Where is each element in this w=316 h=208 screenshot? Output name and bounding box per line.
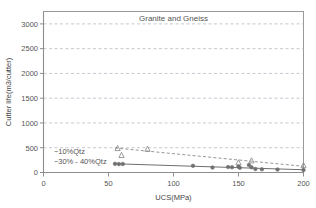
y-axis-title: Cutter life(m3/cutter) (4, 57, 13, 126)
y-tick-label-500: 500 (25, 144, 38, 153)
data-point-series-1-6 (230, 165, 234, 169)
data-point-series-1-13 (276, 168, 280, 172)
data-point-series-1-5 (226, 165, 230, 169)
data-point-series-1-3 (191, 164, 195, 168)
data-point-series-1-4 (211, 166, 215, 170)
annotation-0: ~10%Qtz (54, 147, 85, 156)
data-point-series-1-10 (250, 165, 254, 169)
annotation-1: ~30% - 40%Qtz (54, 157, 107, 166)
x-tick-label-150: 150 (232, 179, 245, 188)
data-point-series-1-8 (238, 166, 242, 170)
chart-title: Granite and Gneiss (139, 14, 208, 23)
x-tick-label-100: 100 (167, 179, 180, 188)
y-tick-label-1500: 1500 (21, 94, 38, 103)
x-tick-label-200: 200 (297, 179, 310, 188)
data-point-series-1-1 (117, 162, 121, 166)
y-tick-label-1000: 1000 (21, 119, 38, 128)
data-point-series-1-14 (302, 168, 306, 172)
chart-figure: 050010001500200025003000050100150200UCS(… (0, 0, 316, 208)
x-axis-title: UCS(MPa) (155, 193, 192, 202)
x-tick-label-0: 0 (41, 179, 45, 188)
data-point-series-1-11 (254, 167, 258, 171)
data-point-series-1-0 (113, 162, 117, 166)
x-tick-label-50: 50 (104, 179, 112, 188)
y-tick-label-2500: 2500 (21, 44, 38, 53)
chart-canvas: 050010001500200025003000050100150200UCS(… (0, 0, 316, 208)
y-tick-label-3000: 3000 (21, 20, 38, 29)
data-point-series-1-12 (260, 167, 264, 171)
y-tick-label-2000: 2000 (21, 69, 38, 78)
y-tick-label-0: 0 (34, 168, 38, 177)
data-point-series-1-2 (121, 162, 125, 166)
